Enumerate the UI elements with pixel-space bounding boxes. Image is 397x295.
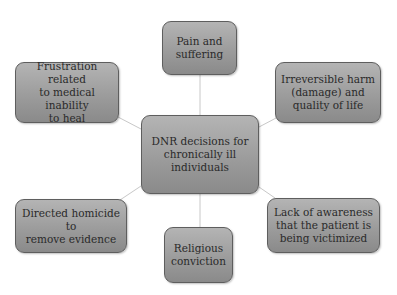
node-text: Irreversible harm: [281, 73, 375, 86]
node-text: Lack of awareness: [274, 206, 373, 219]
node-text: Frustration related: [20, 60, 114, 86]
node-lack-of-awareness: Lack of awareness that the patient is be…: [267, 198, 380, 253]
node-text: suffering: [176, 48, 224, 61]
node-text: Directed homicide to: [20, 207, 122, 233]
node-text: Religious: [171, 242, 226, 255]
node-text: being victimized: [274, 232, 373, 245]
node-irreversible-harm: Irreversible harm (damage) and quality o…: [275, 62, 381, 123]
center-line-1: DNR decisions for: [152, 135, 249, 148]
node-text: that the patient is: [274, 219, 373, 232]
node-directed-homicide: Directed homicide to remove evidence: [15, 199, 127, 253]
node-text: (damage) and: [281, 86, 375, 99]
node-text: quality of life: [281, 99, 375, 112]
node-religious-conviction: Religious conviction: [164, 227, 233, 283]
center-line-3: individuals: [152, 161, 249, 174]
center-line-2: chronically ill: [152, 148, 249, 161]
center-node: DNR decisions for chronically ill indivi…: [141, 115, 259, 194]
node-text: Pain and: [176, 35, 224, 48]
node-text: conviction: [171, 255, 226, 268]
node-text: to heal: [20, 112, 114, 125]
node-text: remove evidence: [20, 233, 122, 246]
node-pain-suffering: Pain and suffering: [162, 21, 237, 75]
node-frustration: Frustration related to medical inability…: [15, 62, 119, 123]
node-text: to medical inability: [20, 86, 114, 112]
